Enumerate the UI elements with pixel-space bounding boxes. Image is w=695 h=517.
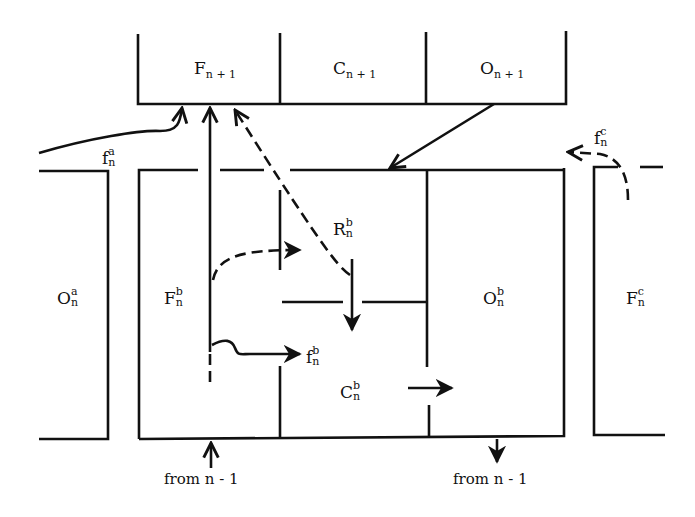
label-f-b-n: Fbn [164, 288, 183, 310]
label-o-a-n: Oan [57, 288, 78, 310]
label-c-b-n: Cbn [340, 382, 360, 404]
flow-fbn-arrow [212, 341, 300, 355]
flow-fb-to-rb-arrow [213, 250, 300, 280]
label-flow-f-c-n: fcn [594, 128, 607, 150]
label-from-n-1-left: from n - 1 [164, 472, 239, 487]
flow-on1-to-b-arrow [390, 104, 494, 168]
flow-fc-arrow [568, 152, 628, 200]
diagram-canvas: Fn + 1 Cn + 1 On + 1 Oan Fbn Rbn Cbn Obn… [0, 0, 695, 517]
label-c-n-plus-1: Cn + 1 [333, 60, 376, 77]
label-o-n-plus-1: On + 1 [480, 60, 524, 77]
label-flow-f-a-n: fan [102, 148, 115, 170]
label-from-n-1-right: from n - 1 [453, 472, 528, 487]
label-f-c-n: Fcn [626, 288, 645, 310]
label-flow-f-b-n: fbn [306, 347, 319, 369]
label-r-b-n: Rbn [333, 219, 353, 241]
label-o-b-n: Obn [483, 288, 504, 310]
label-f-n-plus-1: Fn + 1 [194, 60, 236, 77]
